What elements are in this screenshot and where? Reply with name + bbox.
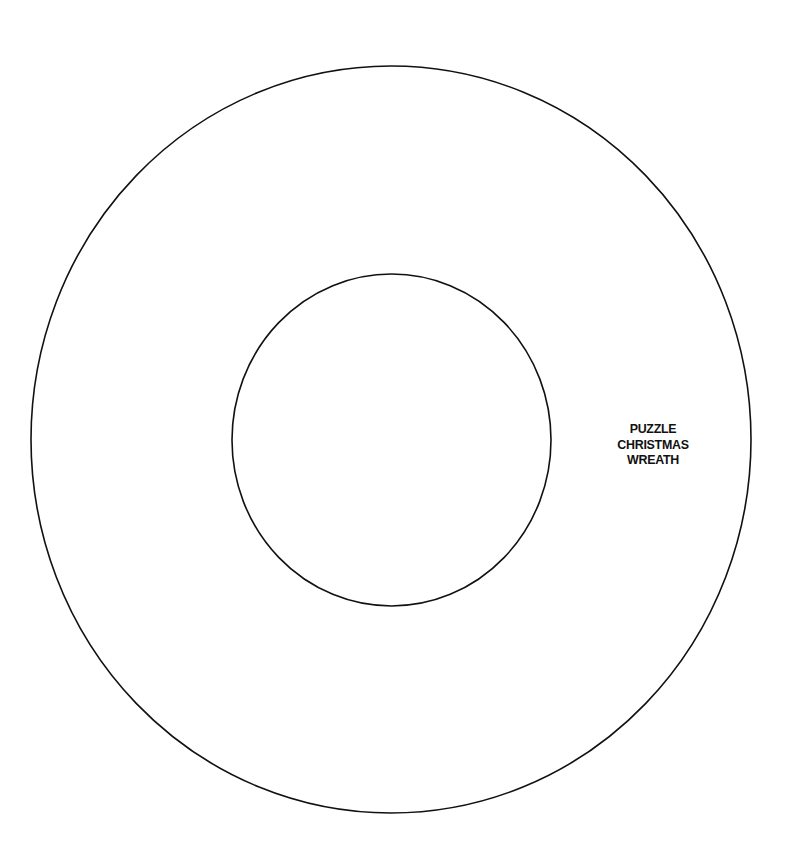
template-title: PUZZLE CHRISTMAS WREATH — [593, 421, 713, 468]
title-line-1: PUZZLE — [598, 421, 708, 437]
inner-circle — [232, 274, 551, 606]
title-line-2: CHRISTMAS — [598, 437, 708, 453]
title-line-3: WREATH — [598, 452, 708, 468]
